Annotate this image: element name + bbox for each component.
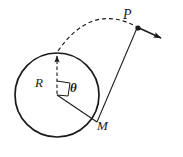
angle-theta-label: θ <box>70 81 77 94</box>
trajectory-arc <box>58 19 137 51</box>
point-p-label: P <box>123 8 132 22</box>
m-to-p-line <box>97 28 137 122</box>
velocity-arrow <box>139 28 161 38</box>
point-p-marker <box>135 25 140 30</box>
radius-label: R <box>35 76 43 89</box>
physics-diagram: P M R θ <box>0 0 183 157</box>
point-m-label: M <box>97 119 108 132</box>
radius-to-m-line <box>57 95 97 122</box>
diagram-canvas <box>0 0 183 157</box>
angle-marker <box>57 81 70 96</box>
